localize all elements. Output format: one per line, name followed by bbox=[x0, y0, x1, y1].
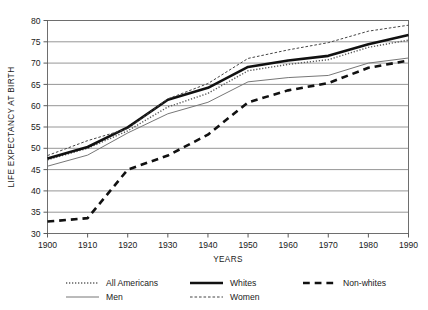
legend-label-whites: Whites bbox=[230, 278, 256, 288]
y-tick-label: 50 bbox=[31, 143, 41, 153]
legend-label-men: Men bbox=[106, 292, 123, 302]
y-tick-label: 60 bbox=[31, 101, 41, 111]
y-tick-label: 75 bbox=[31, 37, 41, 47]
y-tick-label: 35 bbox=[31, 207, 41, 217]
legend-label-non-whites: Non-whites bbox=[343, 278, 386, 288]
x-axis: 1900191019201930194019501960197019801990 bbox=[38, 234, 418, 250]
y-tick-label: 30 bbox=[31, 229, 41, 239]
x-tick-label: 1960 bbox=[279, 240, 298, 250]
x-tick-label: 1950 bbox=[238, 240, 257, 250]
life-expectancy-chart: 3035404550556065707580 19001910192019301… bbox=[0, 0, 428, 310]
data-series-group bbox=[48, 25, 409, 221]
y-axis: 3035404550556065707580 bbox=[31, 16, 48, 239]
x-tick-label: 1900 bbox=[38, 240, 57, 250]
y-axis-title: LIFE EXPECTANCY AT BIRTH bbox=[7, 67, 16, 188]
legend-item-whites: Whites bbox=[190, 278, 256, 288]
y-tick-label: 80 bbox=[31, 16, 41, 26]
x-tick-label: 1980 bbox=[359, 240, 378, 250]
legend-label-women: Women bbox=[230, 292, 260, 302]
chart-svg: 3035404550556065707580 19001910192019301… bbox=[0, 0, 428, 310]
series-line-women bbox=[48, 25, 409, 155]
legend-item-non-whites: Non-whites bbox=[303, 278, 386, 288]
y-tick-label: 55 bbox=[31, 122, 41, 132]
y-tick-label: 40 bbox=[31, 186, 41, 196]
series-line-whites bbox=[48, 35, 409, 159]
y-tick-label: 70 bbox=[31, 58, 41, 68]
legend-item-women: Women bbox=[190, 292, 260, 302]
chart-legend: All AmericansWhitesNon-whitesMenWomen bbox=[66, 278, 386, 302]
y-tick-label: 65 bbox=[31, 80, 41, 90]
legend-item-men: Men bbox=[66, 292, 123, 302]
legend-label-all-americans: All Americans bbox=[106, 278, 158, 288]
legend-item-all-americans: All Americans bbox=[66, 278, 158, 288]
x-tick-label: 1910 bbox=[78, 240, 97, 250]
x-tick-label: 1990 bbox=[399, 240, 418, 250]
x-tick-label: 1920 bbox=[118, 240, 137, 250]
x-axis-title: YEARS bbox=[213, 255, 243, 264]
x-tick-label: 1940 bbox=[198, 240, 217, 250]
x-tick-label: 1930 bbox=[158, 240, 177, 250]
series-line-all-americans bbox=[48, 40, 409, 160]
y-tick-label: 45 bbox=[31, 165, 41, 175]
x-tick-label: 1970 bbox=[319, 240, 338, 250]
